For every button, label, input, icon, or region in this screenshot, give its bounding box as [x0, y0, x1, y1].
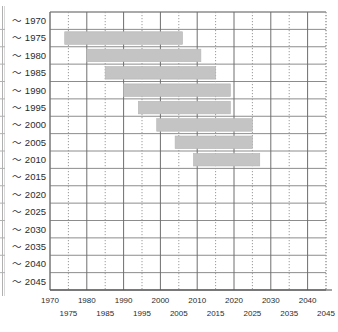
y-axis-tick-label: 〜 1980 [12, 50, 46, 61]
x-axis-tick-label-major: 1970 [41, 296, 59, 305]
timeline-bar [194, 153, 260, 166]
y-axis-tick-label: 〜 2010 [12, 154, 46, 165]
x-axis-tick-label-major: 1990 [115, 296, 133, 305]
x-axis-tick-label-minor: 2025 [244, 309, 262, 318]
y-axis-tick-label: 〜 1985 [12, 67, 46, 78]
x-axis-tick-label-major: 2020 [225, 296, 243, 305]
x-axis-tick-label-minor: 1975 [60, 309, 78, 318]
x-axis-tick-label-major: 1980 [78, 296, 96, 305]
x-axis-tick-label-minor: 2015 [207, 309, 225, 318]
y-axis-tick-label: 〜 2000 [12, 119, 46, 130]
chart-container: 〜 1970〜 1975〜 1980〜 1985〜 1990〜 1995〜 20… [0, 0, 338, 332]
x-axis-tick-label-major: 2000 [152, 296, 170, 305]
y-axis-tick-label: 〜 1990 [12, 85, 46, 96]
timeline-bar [87, 49, 201, 62]
y-axis-tick-label: 〜 2040 [12, 258, 46, 269]
x-axis-tick-label-major: 2010 [188, 296, 206, 305]
y-axis-tick-label: 〜 2015 [12, 171, 46, 182]
y-axis-tick-label: 〜 1970 [12, 15, 46, 26]
x-axis-tick-label-major: 2040 [299, 296, 317, 305]
y-axis-tick-label: 〜 2045 [12, 276, 46, 287]
timeline-bar [157, 119, 253, 132]
y-axis-tick-label: 〜 1975 [12, 32, 46, 43]
y-axis-tick-label: 〜 2020 [12, 189, 46, 200]
x-axis-tick-label-minor: 2005 [170, 309, 188, 318]
y-axis-tick-label: 〜 2030 [12, 224, 46, 235]
timeline-bar [138, 101, 230, 114]
y-axis-tick-label: 〜 2005 [12, 137, 46, 148]
timeline-bar [175, 136, 252, 149]
x-axis-tick-label-minor: 2035 [280, 309, 298, 318]
timeline-bar [65, 32, 183, 45]
y-axis-tick-label: 〜 2025 [12, 206, 46, 217]
timeline-bar [105, 67, 215, 80]
x-axis-tick-label-major: 2030 [262, 296, 280, 305]
x-axis-tick-label-minor: 1985 [96, 309, 114, 318]
timeline-bar [124, 84, 231, 97]
y-axis-tick-label: 〜 1995 [12, 102, 46, 113]
x-axis-tick-label-minor: 2045 [317, 309, 335, 318]
x-axis-tick-label-minor: 1995 [133, 309, 151, 318]
timeline-gantt-chart: 〜 1970〜 1975〜 1980〜 1985〜 1990〜 1995〜 20… [0, 0, 338, 332]
y-axis-tick-label: 〜 2035 [12, 241, 46, 252]
